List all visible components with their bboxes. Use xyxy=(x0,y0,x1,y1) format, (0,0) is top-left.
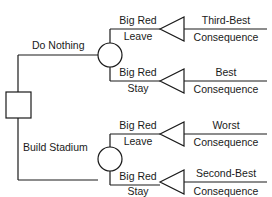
consequence-sub-label: Consequence xyxy=(194,185,259,197)
event-label-top: Big Red xyxy=(119,66,157,78)
event-label-bottom: Stay xyxy=(127,82,149,94)
event-label-bottom: Stay xyxy=(127,185,149,197)
consequence-label: Best xyxy=(215,66,236,78)
decision-node-square xyxy=(6,92,31,118)
consequence-label: Second-Best xyxy=(196,167,256,179)
outcome-0-1: Big Red Stay Best Consequence xyxy=(110,66,267,95)
event-label-top: Big Red xyxy=(119,14,157,26)
outcome-0-0: Big Red Leave Third-Best Consequence xyxy=(110,14,267,43)
outcome-1-1: Big Red Stay Second-Best Consequence xyxy=(110,167,267,197)
outcome-1-0: Big Red Leave Worst Consequence xyxy=(110,119,267,148)
branch-label: Do Nothing xyxy=(32,39,85,51)
consequence-label: Third-Best xyxy=(202,14,251,26)
branch-label: Build Stadium xyxy=(23,141,88,153)
consequence-label: Worst xyxy=(212,119,239,131)
terminal-triangle xyxy=(160,69,184,93)
event-label-top: Big Red xyxy=(119,170,157,182)
branch-do-nothing: Do Nothing Big Red Leave Third-Best Cons… xyxy=(18,14,267,95)
chance-node-circle xyxy=(98,43,122,67)
event-label-bottom: Leave xyxy=(124,30,153,42)
terminal-triangle xyxy=(160,122,184,146)
decision-tree-diagram: Do Nothing Big Red Leave Third-Best Cons… xyxy=(0,0,272,197)
branch-build-stadium: Build Stadium Big Red Leave Worst Conseq… xyxy=(18,119,267,197)
consequence-sub-label: Consequence xyxy=(194,83,259,95)
chance-node-circle xyxy=(98,147,122,171)
event-label-bottom: Leave xyxy=(124,135,153,147)
consequence-sub-label: Consequence xyxy=(194,136,259,148)
event-label-top: Big Red xyxy=(119,119,157,131)
consequence-sub-label: Consequence xyxy=(194,31,259,43)
terminal-triangle xyxy=(160,170,184,194)
terminal-triangle xyxy=(160,17,184,41)
